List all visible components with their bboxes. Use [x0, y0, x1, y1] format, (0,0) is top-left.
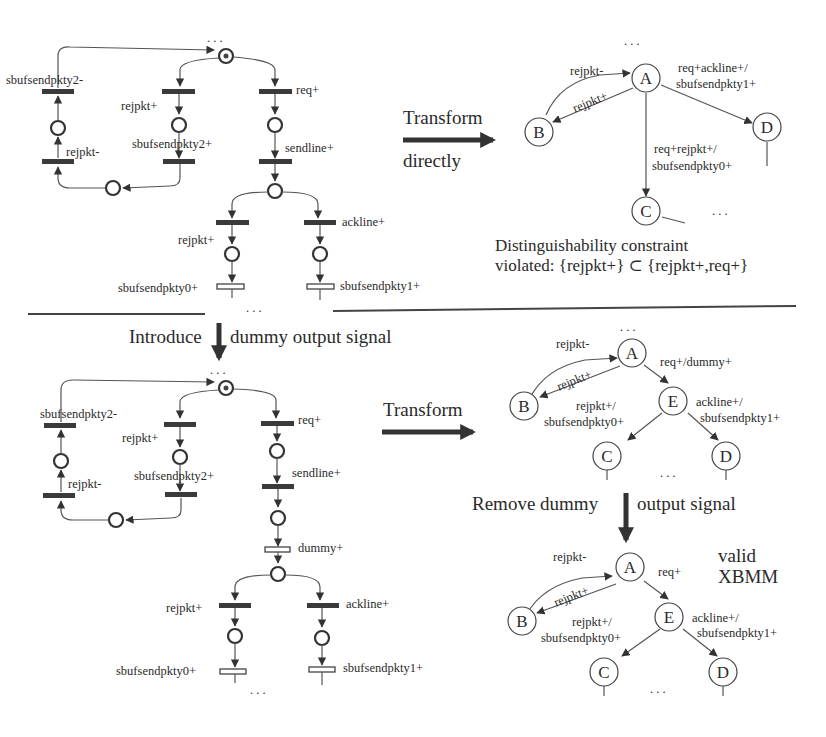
state-b-label: B [516, 612, 527, 631]
label-sbufsendpkty1-plus: sbufsendpkty1+ [343, 661, 423, 675]
transform-directly-step: Transform directly [403, 107, 493, 171]
transition-sbufsendpkty2-minus [44, 423, 76, 428]
state-a-label: A [626, 344, 639, 363]
transition-dummy-plus [265, 547, 290, 552]
label-ackline-plus: ackline+ [342, 215, 385, 229]
transition-rejpkt-plus-branch [219, 603, 251, 608]
label-rejpkt-minus: rejpkt- [66, 145, 99, 159]
petri-net-top: . . . sbufsendpkty2- rejpkt- rejpkt+ sbu… [6, 31, 420, 315]
edge-label-a-to-d-output: sbufsendpkty1+ [676, 77, 756, 91]
place [268, 184, 282, 198]
dummy-output-signal-label: dummy output signal [230, 326, 392, 347]
edge-label-a-to-d: req+ackline+/ [678, 61, 748, 75]
transition-rejpkt-minus [42, 159, 74, 164]
edge-label-a-to-b: rejpkt+ [571, 89, 610, 116]
transition-sbufsendpkty1-plus [309, 667, 335, 672]
label-rejpkt-minus: rejpkt- [68, 477, 101, 491]
transition-sendline-plus [259, 159, 292, 164]
transition-rejpkt-plus [164, 422, 196, 427]
place [172, 118, 186, 132]
label-req-plus: req+ [296, 83, 319, 97]
place [54, 454, 68, 468]
state-c-label: C [601, 447, 612, 466]
output-signal-label: output signal [637, 493, 736, 514]
xbm-machine-violated: . . . A B C D rejpkt- rejpkt+ req+acklin… [495, 34, 781, 275]
place [271, 511, 285, 525]
label-rejpkt-plus: rejpkt+ [121, 99, 157, 113]
label-sendline-plus: sendline+ [285, 141, 334, 155]
result-label-valid: valid [718, 545, 756, 566]
violation-message-line1: Distinguishability constraint [495, 236, 688, 255]
state-b-label: B [518, 397, 529, 416]
edge-label-a-to-c: req+rejpkt+/ [654, 142, 717, 156]
label-sbufsendpkty2-plus: sbufsendpkty2+ [134, 469, 214, 483]
transformation-diagram: . . . sbufsendpkty2- rejpkt- rejpkt+ sbu… [0, 0, 826, 737]
edge-label-a-to-b: rejpkt+ [555, 367, 594, 394]
ellipsis: . . . [624, 34, 640, 48]
transition-sbufsendpkty1-plus [307, 284, 334, 289]
place [271, 567, 285, 581]
result-label-xbmm: XBMM [718, 566, 778, 587]
edge-label-a-to-c-output: sbufsendpkty0+ [652, 159, 732, 173]
transition-req-plus [259, 89, 292, 94]
edge-label-a-to-e: req+ [658, 565, 681, 579]
ellipsis: . . . [620, 320, 636, 334]
ellipsis: . . . [246, 301, 262, 315]
transition-sbufsendpkty2-minus [42, 89, 74, 94]
state-d-label: D [717, 663, 729, 682]
remove-dummy-label: Remove dummy [472, 493, 599, 514]
transition-rejpkt-plus [162, 89, 195, 94]
state-e-label: E [668, 392, 678, 411]
label-req-plus: req+ [298, 413, 321, 427]
place [270, 444, 284, 458]
xbm-machine-valid: A B E C D rejpkt- rejpkt+ req+ rejpkt+/ … [508, 545, 778, 696]
edge-label-e-to-d-output: sbufsendpkty1+ [697, 626, 777, 640]
edge-label-a-to-e: req+/dummy+ [660, 355, 732, 369]
state-d-label: D [761, 118, 773, 137]
ellipsis: . . . [650, 682, 666, 696]
transition-rejpkt-plus-branch [216, 220, 249, 225]
remove-dummy-step: Remove dummy output signal [472, 493, 736, 540]
label-rejpkt-plus-branch: rejpkt+ [178, 233, 214, 247]
ellipsis: . . . [210, 363, 226, 377]
edge-label-b-to-a: rejpkt- [553, 550, 586, 564]
place [268, 118, 282, 132]
label-rejpkt-plus-branch: rejpkt+ [166, 601, 202, 615]
transition-sendline-plus [262, 484, 294, 489]
state-a-label: A [624, 558, 637, 577]
label-sbufsendpkty2-plus: sbufsendpkty2+ [132, 137, 212, 151]
token-icon [224, 386, 229, 391]
label-dummy-plus: dummy+ [298, 541, 343, 555]
label-sendline-plus: sendline+ [292, 466, 341, 480]
label-sbufsendpkty0-plus: sbufsendpkty0+ [118, 281, 198, 295]
ellipsis: . . . [250, 683, 266, 697]
label-sbufsendpkty2-minus: sbufsendpkty2- [6, 73, 83, 87]
transition-sbufsendpkty0-plus [217, 284, 244, 289]
petri-net-bottom: . . . sbufsendpkty2- rejpkt- rejpkt+ sbu… [40, 363, 423, 697]
edge-label-a-to-b: rejpkt+ [552, 583, 591, 610]
edge-label-e-to-c: rejpkt+/ [576, 399, 616, 413]
label-rejpkt-plus: rejpkt+ [122, 431, 158, 445]
edge-label-e-to-c-output: sbufsendpkty0+ [541, 631, 621, 645]
label-sbufsendpkty2-minus: sbufsendpkty2- [40, 407, 117, 421]
place [106, 181, 120, 195]
place [315, 631, 329, 645]
edge-label-b-to-a: rejpkt- [556, 337, 589, 351]
place [313, 247, 327, 261]
edge-label-e-to-d-output: sbufsendpkty1+ [700, 411, 780, 425]
transition-req-plus [261, 421, 294, 426]
transition-sbufsendpkty0-plus [220, 669, 246, 674]
transform-label: Transform [403, 107, 483, 128]
transition-ackline-plus [307, 603, 339, 608]
divider-right [333, 306, 796, 311]
edge-label-e-to-d: ackline+/ [696, 395, 743, 409]
transition-ackline-plus [304, 220, 336, 225]
place [228, 629, 242, 643]
ellipsis: . . . [660, 466, 676, 480]
edge-label-e-to-d: ackline+/ [692, 611, 739, 625]
xbm-machine-with-dummy: . . . A B E C D rejpkt- rejpkt+ req+/dum… [510, 320, 780, 480]
state-d-label: D [720, 447, 732, 466]
label-sbufsendpkty0-plus: sbufsendpkty0+ [116, 664, 196, 678]
place [51, 121, 65, 135]
ellipsis: . . . [207, 31, 223, 45]
